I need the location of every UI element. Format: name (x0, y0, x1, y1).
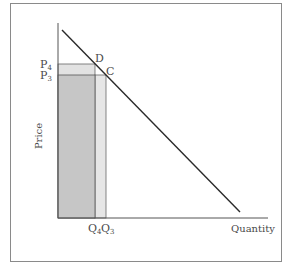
q3-label: Q3 (101, 222, 115, 236)
demand-diagram: P4 P3 D C Q4 Q3 Price Quantity (0, 0, 288, 269)
point-c-label: C (106, 65, 114, 78)
point-d-label: D (95, 52, 104, 65)
x-axis-label: Quantity (231, 223, 275, 234)
y-axis-label: Price (33, 123, 44, 149)
q4-label: Q4 (88, 222, 102, 236)
revenue-area-q3-band (95, 75, 106, 218)
revenue-area-overlap (58, 75, 95, 218)
